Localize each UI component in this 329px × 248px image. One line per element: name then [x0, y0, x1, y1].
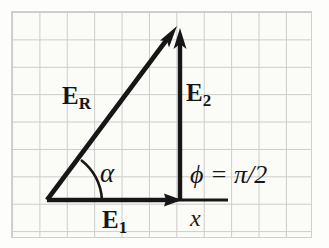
label-angle-alpha: α [100, 160, 114, 187]
label-resultant-vector: ER [62, 83, 91, 112]
phase-value: π/2 [234, 160, 267, 189]
angle-arc-alpha [81, 160, 102, 200]
label-phase-equation: ϕ = π/2 [190, 162, 267, 188]
vector-diagram [0, 0, 329, 248]
label-vector-e2: E2 [186, 80, 211, 109]
phase-symbol: ϕ [190, 160, 203, 189]
figure-canvas: ER E2 E1 α ϕ = π/2 x [0, 0, 329, 248]
label-x-axis: x [190, 206, 201, 230]
label-vector-e1: E1 [102, 207, 127, 236]
